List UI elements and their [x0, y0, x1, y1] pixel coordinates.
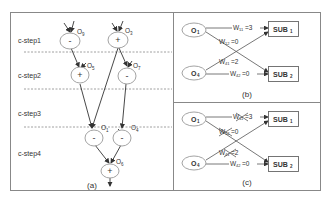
sub-node-sub2: SUB 2 — [269, 157, 299, 172]
cstep-label: c-step3 — [18, 110, 41, 118]
panel-c: O 1 O 4 SUB 1 SUB 2 W 11 =3 W 12 — [182, 112, 299, 188]
weight-w42: W 42 =0 — [229, 70, 257, 78]
svg-text:-: - — [126, 71, 129, 81]
svg-text:=0: =0 — [242, 70, 250, 77]
svg-text:=2: =2 — [231, 58, 239, 65]
svg-text:=0: =0 — [231, 128, 239, 135]
svg-text:9: 9 — [82, 32, 85, 37]
svg-text:SUB: SUB — [273, 161, 288, 168]
cstep-label: c-step2 — [18, 72, 41, 80]
sub-node-sub1: SUB 1 — [269, 112, 299, 127]
svg-text:1: 1 — [106, 128, 109, 133]
weight-w41: W 41 =2 — [219, 58, 239, 66]
cstep-label: c-step4 — [18, 150, 41, 158]
svg-text:+: + — [107, 166, 112, 176]
svg-text:SUB: SUB — [273, 116, 288, 123]
svg-text:42: 42 — [236, 163, 241, 168]
panel-a: c-step1 c-step2 c-step3 c-step4 - O 9 — [18, 21, 172, 190]
svg-text:+: + — [77, 70, 82, 80]
node-o9: - O 9 — [60, 28, 85, 49]
weight-w12-crossed: W 12 =0 — [219, 128, 239, 136]
node-o5: + O 5 — [71, 62, 95, 83]
sub-node-sub2: SUB 2 — [269, 67, 299, 82]
weight-w41-crossed: W 41 =2 — [219, 149, 239, 157]
op-node-o4: O 4 — [182, 66, 206, 80]
cstep-label: c-step1 — [18, 37, 41, 45]
svg-text:=0: =0 — [231, 38, 239, 45]
svg-text:7: 7 — [138, 66, 141, 71]
svg-text:3: 3 — [130, 31, 133, 36]
svg-text:6: 6 — [121, 162, 124, 167]
op-node-o1: O 1 — [182, 112, 206, 126]
svg-text:-: - — [69, 36, 72, 46]
svg-text:=3: =3 — [245, 24, 253, 31]
svg-text:-: - — [121, 133, 124, 143]
svg-text:+: + — [115, 35, 120, 45]
svg-text:12: 12 — [225, 41, 230, 46]
node-o3: + O 3 — [108, 27, 133, 48]
svg-text:SUB: SUB — [273, 26, 288, 33]
weight-w12: W 12 =0 — [219, 38, 239, 46]
op-node-o1: O 1 — [182, 23, 206, 37]
weight-w11: W 11 =3 — [232, 24, 260, 32]
caption-c: (c) — [242, 178, 252, 187]
svg-text:41: 41 — [225, 61, 230, 66]
svg-text:42: 42 — [236, 73, 241, 78]
panel-b: O 1 O 4 SUB 1 SUB 2 W 11 =3 W 12 =0 — [182, 22, 299, 100]
weight-w42: W 42 =0 — [229, 160, 257, 168]
svg-text:SUB: SUB — [273, 71, 288, 78]
svg-text:=0: =0 — [242, 160, 250, 167]
sub-node-sub1: SUB 1 — [269, 22, 299, 37]
caption-b: (b) — [242, 90, 252, 99]
weight-w11-crossed: W 11 =3 — [232, 113, 260, 121]
op-node-o4: O 4 — [182, 156, 206, 170]
svg-text:5: 5 — [92, 66, 95, 71]
caption-a: (a) — [87, 181, 97, 190]
svg-text:-: - — [93, 133, 96, 143]
svg-text:4: 4 — [136, 128, 139, 133]
